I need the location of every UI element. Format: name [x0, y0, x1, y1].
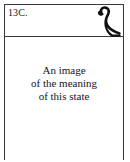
figure-panel: 13C. An image of the meaning of this sta…: [4, 4, 124, 160]
figure-label: 13C.: [8, 7, 28, 19]
figure-body: An image of the meaning of this state: [5, 37, 123, 160]
caption-line: An image: [5, 64, 123, 77]
figure-caption: An image of the meaning of this state: [5, 64, 123, 103]
cobra-hieroglyph-icon: [94, 6, 122, 39]
caption-line: of the meaning: [5, 77, 123, 90]
figure-header: 13C.: [5, 5, 123, 37]
caption-line: of this state: [5, 90, 123, 103]
